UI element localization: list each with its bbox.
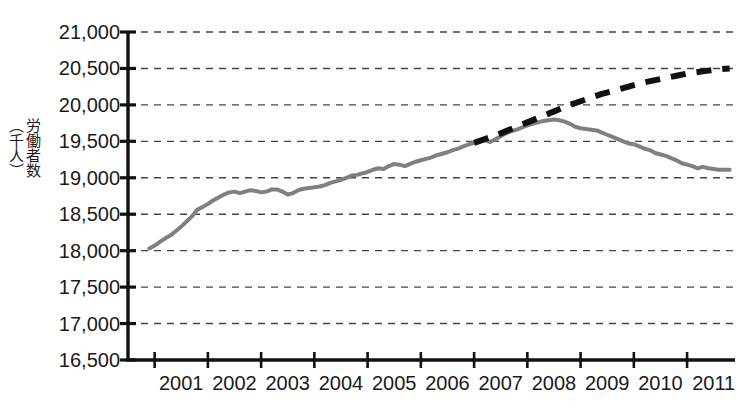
plot-area	[0, 0, 740, 418]
x-tick-label: 2011	[682, 372, 740, 394]
chart-container: 労働者数 （千人） 21,00020,50020,00019,50019,000…	[0, 0, 740, 418]
series-line-actual	[149, 119, 729, 248]
data-series-layer	[149, 68, 729, 248]
gridlines	[128, 32, 735, 324]
